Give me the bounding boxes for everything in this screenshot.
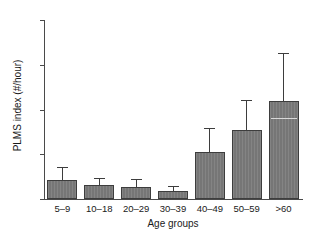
y-axis-title: PLMS index (#/hour) (12, 31, 23, 181)
y-axis-tick (40, 110, 44, 111)
plot-area: 5–910–1820–2930–3940–4950–59>60 (44, 20, 302, 199)
bar-inner-line (271, 118, 297, 119)
bar (269, 101, 299, 199)
x-axis-tick-label: >60 (265, 203, 302, 214)
y-axis-line (44, 20, 45, 200)
x-axis-tick-label: 20–29 (118, 203, 155, 214)
bar-group (195, 20, 225, 199)
error-bar-cap (57, 167, 68, 168)
error-bar-stem (99, 179, 100, 184)
x-axis-tick-label: 30–39 (155, 203, 192, 214)
bar-group (269, 20, 299, 199)
bar (84, 185, 114, 199)
bar-group (232, 20, 262, 199)
error-bar-stem (173, 187, 174, 191)
x-axis-tick-label: 50–59 (228, 203, 265, 214)
y-axis-tick (40, 20, 44, 21)
bar (232, 130, 262, 199)
error-bar-cap (168, 186, 179, 187)
figure-bar-chart: PLMS index (#/hour) 010203040 5–910–1820… (0, 0, 315, 245)
x-axis-tick-label: 5–9 (44, 203, 81, 214)
error-bar-cap (131, 179, 142, 180)
bar (47, 180, 77, 199)
bar-group (158, 20, 188, 199)
error-bar-stem (209, 129, 210, 152)
bar (158, 191, 188, 199)
error-bar-cap (241, 100, 252, 101)
error-bar-stem (246, 101, 247, 130)
y-axis-tick (40, 65, 44, 66)
bar-group (121, 20, 151, 199)
bar (121, 187, 151, 199)
x-axis-title: Age groups (44, 218, 302, 229)
y-axis-tick (40, 199, 44, 200)
error-bar-cap (278, 53, 289, 54)
x-axis-line (44, 199, 303, 200)
error-bar-cap (94, 178, 105, 179)
error-bar-stem (62, 168, 63, 180)
x-axis-tick-label: 10–18 (81, 203, 118, 214)
bar-group (84, 20, 114, 199)
bar (195, 152, 225, 199)
y-axis-tick (40, 154, 44, 155)
x-axis-tick-label: 40–49 (191, 203, 228, 214)
error-bar-stem (136, 180, 137, 187)
bar-group (47, 20, 77, 199)
error-bar-cap (204, 128, 215, 129)
error-bar-stem (283, 54, 284, 101)
